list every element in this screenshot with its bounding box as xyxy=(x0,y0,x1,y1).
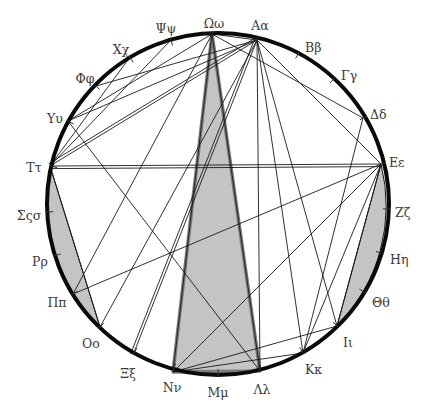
label-pi: Ππ xyxy=(47,295,66,310)
chord-alpha-upsilon xyxy=(68,40,257,121)
label-omicron: Οο xyxy=(82,336,100,351)
label-nu: Νν xyxy=(163,380,182,395)
chord-alpha-lambda xyxy=(257,40,260,371)
chord-iota-alpha xyxy=(257,40,337,326)
label-psi: Ψψ xyxy=(156,21,177,36)
label-kappa: Κκ xyxy=(305,362,322,377)
label-alpha: Αα xyxy=(250,18,269,33)
label-upsilon: Υυ xyxy=(46,111,63,126)
label-phi: Φφ xyxy=(75,71,94,86)
alphabet-chord-diagram: ΩωΑαΒβΓγΔδΕεΖζΗηΘθΙιΚκΛλΜμΝνΞξΟοΠπΡρΣςσΤ… xyxy=(0,0,430,418)
label-theta: Θθ xyxy=(372,295,390,310)
chord-alpha-epsilon xyxy=(257,40,381,164)
label-iota: Ιι xyxy=(343,335,353,350)
chord-alpha-kappa xyxy=(257,40,303,353)
label-chi: Χχ xyxy=(113,42,130,57)
label-lambda: Λλ xyxy=(253,382,271,397)
label-gamma: Γγ xyxy=(341,68,357,83)
label-tau: Ττ xyxy=(26,160,41,175)
label-beta: Ββ xyxy=(305,40,321,55)
label-zeta: Ζζ xyxy=(395,205,411,220)
central-wedge xyxy=(173,34,260,372)
label-rho: Ρρ xyxy=(32,254,48,269)
label-eta: Ηη xyxy=(390,252,408,267)
diagram-canvas: ΩωΑαΒβΓγΔδΕεΖζΗηΘθΙιΚκΛλΜμΝνΞξΟοΠπΡρΣςσΤ… xyxy=(0,0,430,418)
label-epsilon: Εε xyxy=(389,155,405,170)
label-delta: Δδ xyxy=(370,107,387,122)
label-omega: Ωω xyxy=(204,16,225,31)
label-sigma: Σςσ xyxy=(17,208,42,223)
label-mu: Μμ xyxy=(208,385,229,400)
label-xi: Ξξ xyxy=(120,366,136,381)
